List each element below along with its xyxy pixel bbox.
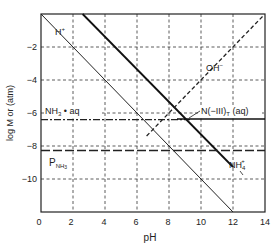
- oh-minus-line: [147, 16, 263, 136]
- label-oh-minus: OH−: [206, 62, 224, 73]
- nh4-pointer: [240, 171, 243, 175]
- x-axis-ticks: 0 2 4 6 8 10 12 14: [36, 217, 270, 227]
- svg-text:−2: −2: [27, 42, 37, 52]
- svg-text:4: 4: [101, 217, 106, 227]
- x-axis-title: pH: [144, 232, 157, 243]
- chart: H+ OH− NH3 • aq N(−III)T (aq) PNH3 NH4+ …: [0, 0, 275, 247]
- svg-text:0: 0: [36, 217, 41, 227]
- svg-text:8: 8: [165, 217, 170, 227]
- svg-text:−10: −10: [22, 174, 37, 184]
- label-h-plus: H+: [55, 26, 66, 37]
- y-axis-title: log M or (atm): [5, 85, 15, 141]
- svg-text:12: 12: [228, 217, 238, 227]
- svg-text:−8: −8: [27, 141, 37, 151]
- svg-text:2: 2: [68, 217, 73, 227]
- label-n-total: N(−III)T (aq): [201, 106, 248, 117]
- label-p-nh3: PNH3: [49, 157, 67, 170]
- n-total-pointer: [189, 111, 200, 118]
- label-nh3-aq: NH3 • aq: [45, 106, 80, 117]
- nh4-line: [83, 14, 233, 167]
- svg-text:6: 6: [133, 217, 138, 227]
- svg-text:14: 14: [260, 217, 270, 227]
- label-nh4: NH4+: [229, 158, 246, 171]
- svg-text:−6: −6: [27, 108, 37, 118]
- svg-text:10: 10: [196, 217, 206, 227]
- y-axis-ticks: −2 −4 −6 −8 −10: [22, 42, 37, 184]
- svg-text:−4: −4: [27, 75, 37, 85]
